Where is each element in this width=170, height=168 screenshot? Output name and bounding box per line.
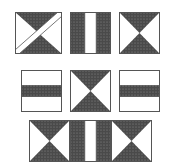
- tile-hourglass: [29, 120, 70, 162]
- tile-horizontal-band: [21, 70, 62, 112]
- tile-vertical-stripes: [70, 12, 111, 54]
- tile-vertical-stripes: [70, 120, 111, 162]
- tile-hourglass: [119, 12, 160, 54]
- tile-horizontal-band: [119, 70, 160, 112]
- tile-hourglass-diagonal: [15, 12, 62, 54]
- tile-hourglass: [70, 70, 111, 112]
- tile-hourglass: [111, 120, 152, 162]
